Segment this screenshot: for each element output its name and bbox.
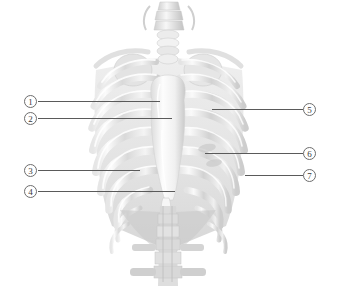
leader-line-1: [38, 101, 160, 102]
leader-line-7: [245, 175, 303, 176]
callout-layer: 1 2 3 4 5 6 7: [0, 0, 337, 292]
leader-line-2: [38, 118, 172, 119]
callout-marker-5[interactable]: 5: [303, 103, 316, 116]
leader-line-4: [38, 191, 175, 192]
anatomy-figure: 1 2 3 4 5 6 7: [0, 0, 337, 292]
callout-marker-1[interactable]: 1: [24, 95, 37, 108]
leader-line-3: [38, 170, 140, 171]
callout-marker-7[interactable]: 7: [303, 169, 316, 182]
callout-marker-4[interactable]: 4: [24, 185, 37, 198]
callout-marker-3[interactable]: 3: [24, 164, 37, 177]
leader-line-5: [212, 109, 303, 110]
callout-marker-6[interactable]: 6: [303, 147, 316, 160]
callout-marker-2[interactable]: 2: [24, 112, 37, 125]
leader-line-6: [205, 153, 303, 154]
